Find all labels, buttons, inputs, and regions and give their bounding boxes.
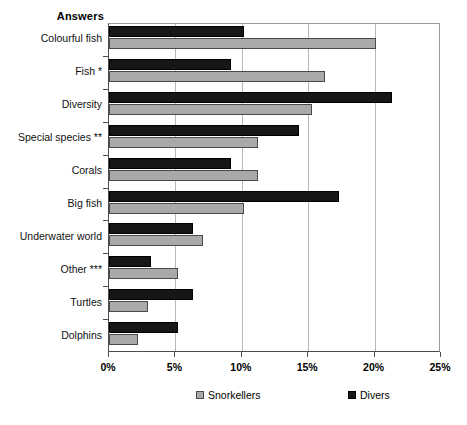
legend-item-divers: Divers bbox=[348, 389, 390, 401]
category-label: Diversity bbox=[0, 98, 102, 110]
x-axis-label: 0% bbox=[100, 361, 115, 373]
category-label: Dolphins bbox=[0, 329, 102, 341]
plot-area bbox=[108, 23, 440, 352]
bar-divers bbox=[109, 125, 299, 136]
category-axis-title: Answers bbox=[0, 10, 104, 22]
x-axis-label: 25% bbox=[429, 361, 450, 373]
bar-snorkellers bbox=[109, 334, 138, 345]
category-tick bbox=[103, 155, 108, 156]
bar-snorkellers bbox=[109, 137, 258, 148]
bar-snorkellers bbox=[109, 104, 312, 115]
bar-snorkellers bbox=[109, 301, 148, 312]
bar-divers bbox=[109, 191, 339, 202]
bar-snorkellers bbox=[109, 170, 258, 181]
category-tick bbox=[103, 220, 108, 221]
bar-divers bbox=[109, 223, 193, 234]
x-axis-tick bbox=[374, 352, 375, 357]
legend-label-snorkellers: Snorkellers bbox=[208, 389, 261, 401]
bar-snorkellers bbox=[109, 71, 325, 82]
bar-group bbox=[109, 320, 439, 353]
bar-snorkellers bbox=[109, 235, 203, 246]
x-axis-label: 10% bbox=[230, 361, 251, 373]
category-label: Turtles bbox=[0, 296, 102, 308]
bar-group bbox=[109, 123, 439, 156]
bar-group bbox=[109, 287, 439, 320]
legend-swatch-snorkellers bbox=[196, 391, 204, 399]
bar-divers bbox=[109, 26, 244, 37]
x-axis-tick bbox=[440, 352, 441, 357]
x-axis-label: 15% bbox=[297, 361, 318, 373]
bar-group bbox=[109, 221, 439, 254]
bar-group bbox=[109, 90, 439, 123]
category-tick bbox=[103, 188, 108, 189]
category-tick bbox=[103, 319, 108, 320]
category-label: Big fish bbox=[0, 197, 102, 209]
category-label: Fish * bbox=[0, 65, 102, 77]
bar-divers bbox=[109, 92, 392, 103]
bar-divers bbox=[109, 289, 193, 300]
bar-divers bbox=[109, 59, 231, 70]
category-label: Corals bbox=[0, 164, 102, 176]
category-label: Underwater world bbox=[0, 230, 102, 242]
x-axis-label: 5% bbox=[167, 361, 182, 373]
bar-group bbox=[109, 24, 439, 57]
legend-label-divers: Divers bbox=[360, 389, 390, 401]
x-axis-label: 20% bbox=[363, 361, 384, 373]
bar-chart: Answers Snorkellers Divers Colourful fis… bbox=[0, 0, 467, 425]
bar-group bbox=[109, 156, 439, 189]
bar-divers bbox=[109, 158, 231, 169]
x-axis-tick bbox=[108, 352, 109, 357]
bar-group bbox=[109, 57, 439, 90]
bar-snorkellers bbox=[109, 38, 376, 49]
bar-group bbox=[109, 254, 439, 287]
bar-group bbox=[109, 189, 439, 222]
category-tick bbox=[103, 56, 108, 57]
category-label: Other *** bbox=[0, 263, 102, 275]
bar-snorkellers bbox=[109, 268, 178, 279]
category-tick bbox=[103, 286, 108, 287]
x-axis-tick bbox=[241, 352, 242, 357]
category-label: Colourful fish bbox=[0, 32, 102, 44]
x-axis-tick bbox=[307, 352, 308, 357]
category-label: Special species ** bbox=[0, 131, 102, 143]
legend-swatch-divers bbox=[348, 391, 356, 399]
category-tick bbox=[103, 253, 108, 254]
category-tick bbox=[103, 122, 108, 123]
category-tick bbox=[103, 89, 108, 90]
x-axis-tick bbox=[174, 352, 175, 357]
bar-snorkellers bbox=[109, 203, 244, 214]
bar-divers bbox=[109, 256, 151, 267]
bar-divers bbox=[109, 322, 178, 333]
legend-item-snorkellers: Snorkellers bbox=[196, 389, 261, 401]
